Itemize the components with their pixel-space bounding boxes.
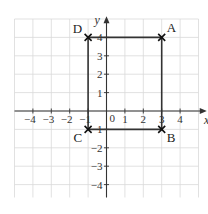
origin-label: 0 — [110, 112, 116, 124]
x-tick-label: −1 — [79, 113, 91, 125]
y-tick-label: −1 — [91, 123, 103, 135]
y-tick-label: 3 — [97, 50, 103, 62]
point-label-b: B — [167, 130, 176, 145]
y-tick-label: −2 — [91, 142, 103, 154]
coordinate-grid-svg: ABCD −4−3−2−112341234−1−2−3−40xy — [0, 0, 208, 214]
y-axis-arrow-icon — [104, 16, 110, 23]
x-tick-label: 1 — [122, 113, 128, 125]
x-tick-label: −2 — [61, 113, 73, 125]
x-tick-label: −4 — [24, 113, 36, 125]
y-tick-label: 4 — [97, 31, 103, 43]
x-tick-label: 3 — [159, 113, 165, 125]
point-label-d: D — [73, 21, 82, 36]
y-tick-label: 1 — [97, 87, 103, 99]
y-axis-label: y — [94, 13, 101, 27]
y-tick-label: 2 — [97, 68, 103, 80]
coordinate-diagram: ABCD −4−3−2−112341234−1−2−3−40xy — [0, 0, 208, 214]
point-label-c: C — [73, 130, 82, 145]
y-tick-label: −3 — [91, 160, 103, 172]
y-tick-label: −4 — [91, 179, 103, 191]
point-label-a: A — [167, 20, 177, 35]
x-axis-label: x — [203, 113, 208, 127]
x-tick-label: −3 — [42, 113, 54, 125]
x-tick-label: 2 — [141, 113, 147, 125]
x-tick-label: 4 — [177, 113, 183, 125]
axes — [15, 16, 207, 197]
